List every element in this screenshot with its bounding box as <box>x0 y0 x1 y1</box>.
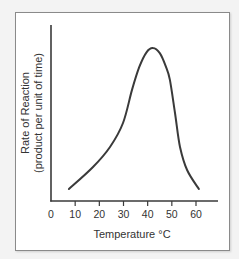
reaction-rate-chart: 0102030405060 Rate of Reaction (product … <box>0 0 239 259</box>
x-tick-label: 0 <box>48 208 54 220</box>
y-axis-sublabel: (product per unit of time) <box>32 53 44 173</box>
x-tick-label: 30 <box>118 208 130 220</box>
x-axis-label: Temperature °C <box>93 228 170 240</box>
y-axis-label: Rate of Reaction <box>19 72 31 154</box>
x-tick-label: 50 <box>166 208 178 220</box>
x-tick-label: 40 <box>142 208 154 220</box>
x-tick-label: 60 <box>190 208 202 220</box>
x-tick-label: 10 <box>69 208 81 220</box>
x-ticks: 0102030405060 <box>48 201 202 220</box>
rate-curve <box>69 48 199 189</box>
x-tick-label: 20 <box>93 208 105 220</box>
